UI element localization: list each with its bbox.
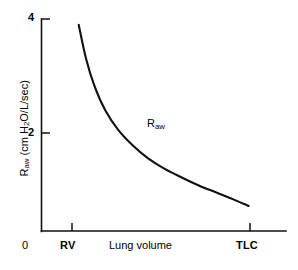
x-axis-title: Lung volume bbox=[109, 240, 172, 251]
y-axis-title: Raw (cm H2O/L/sec) bbox=[19, 53, 32, 203]
curve-annotation-subscript: aw bbox=[155, 122, 165, 131]
x-axis-tick-label-rv: RV bbox=[60, 240, 75, 251]
y-axis-title-units-subscript: 2 bbox=[22, 122, 31, 126]
curve-annotation-raw: Raw bbox=[147, 118, 165, 131]
y-axis-title-units-b: O/L/sec) bbox=[18, 80, 30, 122]
y-axis-title-subscript: aw bbox=[22, 158, 31, 168]
chart-plot-area bbox=[0, 0, 298, 270]
curve-annotation-symbol: R bbox=[147, 117, 155, 129]
y-axis-title-symbol: R bbox=[18, 169, 30, 177]
y-axis-title-units-a: (cm H bbox=[18, 126, 30, 158]
y-axis-tick-label-4: 4 bbox=[28, 12, 34, 23]
x-axis-origin-label: 0 bbox=[22, 240, 28, 251]
chart-figure: 4 2 0 RV TLC Lung volume Raw (cm H2O/L/s… bbox=[0, 0, 298, 270]
raw-curve bbox=[79, 25, 249, 206]
x-axis-tick-label-tlc: TLC bbox=[236, 240, 258, 251]
